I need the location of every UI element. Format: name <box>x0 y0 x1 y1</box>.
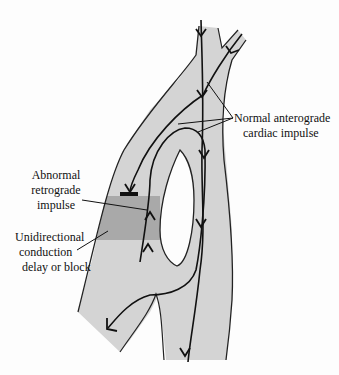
label-block-line2: conduction <box>15 245 91 260</box>
tissue-body <box>78 26 246 360</box>
label-block-line1: Unidirectional <box>15 230 91 245</box>
block-bar-icon <box>120 192 138 196</box>
label-unidirectional-block: Unidirectional conduction delay or block <box>15 230 91 275</box>
label-normal-line1: Normal anterograde <box>234 111 330 126</box>
label-abnormal-line1: Abnormal <box>28 168 84 183</box>
label-abnormal-line3: impulse <box>28 198 84 213</box>
label-abnormal-line2: retrograde <box>28 183 84 198</box>
label-abnormal-retrograde: Abnormal retrograde impulse <box>28 168 84 213</box>
label-normal-anterograde: Normal anterograde cardiac impulse <box>234 111 330 141</box>
label-normal-line2: cardiac impulse <box>234 126 330 141</box>
reentry-diagram: Normal anterograde cardiac impulse Abnor… <box>0 0 339 375</box>
label-block-line3: delay or block <box>15 260 91 275</box>
